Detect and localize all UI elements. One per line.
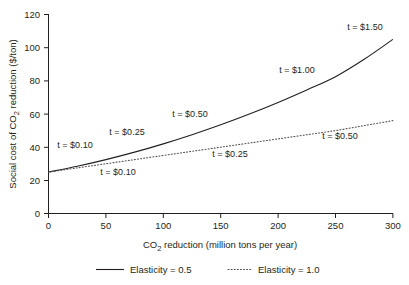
annotation-label: t = $0.10 xyxy=(100,167,135,177)
legend-label-elasticity-0-5: Elasticity = 0.5 xyxy=(130,264,192,275)
x-tick-label: 50 xyxy=(101,220,112,231)
axis-lines xyxy=(49,14,394,214)
y-axis-title: Social cost of CO2 reduction ($/ton) xyxy=(7,39,21,188)
annotation-label: t = $0.25 xyxy=(212,149,247,159)
annotation-label: t = $1.50 xyxy=(347,22,382,32)
y-tick-label: 60 xyxy=(29,109,40,120)
y-axis-title-pre: Social cost of CO xyxy=(7,115,18,188)
y-tick-label: 40 xyxy=(29,142,40,153)
x-tick-label: 300 xyxy=(385,220,401,231)
series-line-elasticity-1-0 xyxy=(49,121,393,172)
x-axis-tick-labels: 0 50 100 150 200 250 300 xyxy=(46,220,401,231)
x-axis-ticks xyxy=(49,214,393,219)
y-axis-ticks xyxy=(44,15,49,214)
legend-label-elasticity-1-0: Elasticity = 1.0 xyxy=(258,264,320,275)
chart-figure: 120 100 80 60 40 20 0 0 50 100 150 200 2… xyxy=(0,0,409,285)
y-tick-label: 120 xyxy=(24,9,40,20)
y-axis-title-post: reduction ($/ton) xyxy=(7,39,18,111)
y-tick-label: 0 xyxy=(35,208,40,219)
chart-annotations: t = $0.10 t = $0.25 t = $0.50 t = $1.00 … xyxy=(57,22,382,177)
chart-svg: 120 100 80 60 40 20 0 0 50 100 150 200 2… xyxy=(0,0,409,285)
x-tick-label: 100 xyxy=(155,220,171,231)
y-tick-label: 100 xyxy=(24,42,40,53)
annotation-label: t = $1.00 xyxy=(279,65,314,75)
x-tick-label: 250 xyxy=(328,220,344,231)
y-tick-label: 80 xyxy=(29,75,40,86)
y-tick-label: 20 xyxy=(29,175,40,186)
x-tick-label: 200 xyxy=(270,220,286,231)
svg-text:Social cost of CO2 reduction (: Social cost of CO2 reduction ($/ton) xyxy=(7,39,21,188)
y-axis-tick-labels: 120 100 80 60 40 20 0 xyxy=(24,9,40,219)
x-tick-label: 0 xyxy=(46,220,51,231)
chart-legend: Elasticity = 0.5 Elasticity = 1.0 xyxy=(96,264,320,275)
x-axis-title-pre: CO xyxy=(143,239,157,250)
annotation-label: t = $0.25 xyxy=(109,127,144,137)
annotation-label: t = $0.10 xyxy=(57,140,92,150)
svg-text:CO2 reduction (million tons pe: CO2 reduction (million tons per year) xyxy=(143,239,297,253)
annotation-label: t = $0.50 xyxy=(322,131,357,141)
x-tick-label: 150 xyxy=(213,220,229,231)
x-axis-title-post: reduction (million tons per year) xyxy=(161,239,297,250)
x-axis-title: CO2 reduction (million tons per year) xyxy=(143,239,297,253)
annotation-label: t = $0.50 xyxy=(172,109,207,119)
axes xyxy=(49,14,394,214)
